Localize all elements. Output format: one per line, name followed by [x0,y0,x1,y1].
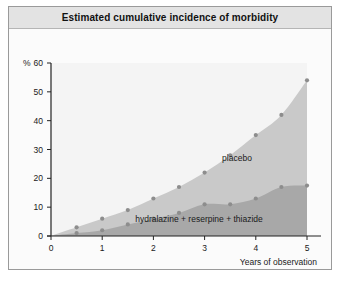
y-tick-label: 50 [34,87,44,97]
page-title: Estimated cumulative incidence of morbid… [62,12,279,23]
x-tick-label: 0 [49,243,54,253]
treatment-data-point [279,185,283,189]
placebo-data-point [126,208,130,212]
treatment-data-point [100,228,104,232]
placebo-data-point [177,185,181,189]
placebo-data-point [203,170,207,174]
placebo-data-point [75,225,79,229]
treatment-data-point [203,202,207,206]
y-axis-unit-label: % [23,58,31,68]
placebo-data-point [151,196,155,200]
chart-plot-area: 0102030405060012345%Years of observation… [9,29,331,270]
placebo-data-point [254,133,258,137]
treatment-data-point [228,202,232,206]
x-tick-label: 4 [253,243,258,253]
x-axis-title: Years of observation [240,257,317,267]
placebo-series-label: placebo [222,153,252,163]
placebo-data-point [100,217,104,221]
treatment-data-point [126,222,130,226]
treatment-data-point [254,196,258,200]
x-tick-label: 3 [202,243,207,253]
treatment-data-point [305,183,309,187]
y-tick-label: 60 [34,58,44,68]
treatment-series-label: hydralazine + reserpine + thiazide [135,214,263,224]
x-tick-label: 1 [100,243,105,253]
morbidity-area-chart: 0102030405060012345%Years of observation… [9,29,333,270]
y-tick-label: 30 [34,145,44,155]
y-tick-label: 0 [38,231,43,241]
y-tick-label: 40 [34,116,44,126]
x-tick-label: 5 [305,243,310,253]
y-tick-label: 10 [34,202,44,212]
placebo-data-point [279,113,283,117]
x-tick-label: 2 [151,243,156,253]
placebo-data-point [305,78,309,82]
treatment-data-point [75,231,79,235]
figure-title-bar: Estimated cumulative incidence of morbid… [9,7,331,29]
figure-frame: Estimated cumulative incidence of morbid… [8,6,332,270]
y-tick-label: 20 [34,173,44,183]
